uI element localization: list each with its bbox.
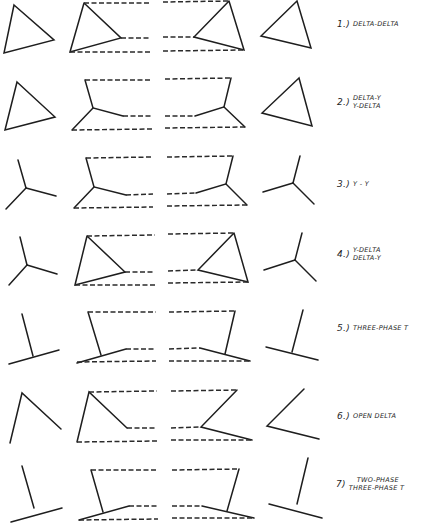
delta-left: [4, 5, 54, 53]
label-3: 3.)Y - Y: [337, 180, 369, 188]
transformer-connections-diagram: [0, 0, 431, 531]
delta-secondary: [194, 1, 244, 50]
label-7: 7)TWO-PHASETHREE-PHASE T: [336, 476, 404, 492]
label-1: 1.)DELTA-DELTA: [337, 20, 399, 28]
delta-right: [261, 1, 311, 48]
row-4-y-delta: [9, 233, 316, 285]
label-2: 2.)DELTA-YY-DELTA: [337, 94, 381, 110]
row-7-two-phase-three-phase-t: [11, 458, 322, 522]
row-3-y-y: [6, 156, 314, 209]
label-5: 5.)THREE-PHASE T: [337, 324, 408, 332]
delta-primary: [70, 3, 121, 52]
label-4: 4.)Y-DELTADELTA-Y: [337, 246, 381, 262]
row-1-delta-delta: [4, 1, 311, 53]
row-5-three-phase-t: [9, 310, 318, 364]
row-2-delta-y: [5, 78, 312, 130]
row-6-open-delta: [10, 389, 319, 443]
label-6: 6.)OPEN DELTA: [337, 412, 396, 420]
